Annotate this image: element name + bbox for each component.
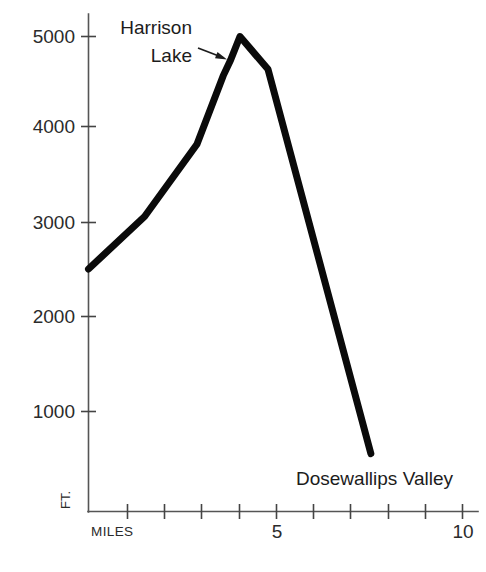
x-tick-label-5: 5: [272, 521, 283, 542]
harrison-lake-label-line1: Harrison: [120, 17, 192, 38]
y-tick-label-4000: 4000: [33, 116, 75, 137]
harrison-lake-label-line2: Lake: [151, 45, 192, 66]
y-tick-label-1000: 1000: [33, 401, 75, 422]
harrison-lake-arrow-head: [215, 52, 227, 60]
elevation-profile-line: [89, 37, 371, 454]
axis-group: [88, 14, 478, 512]
y-tick-label-2000: 2000: [33, 306, 75, 327]
y-axis-unit-label: FT.: [58, 491, 73, 509]
dosewallips-valley-label: Dosewallips Valley: [296, 468, 453, 489]
y-tick-label-group: 5000 4000 3000 2000 1000: [33, 26, 75, 422]
chart-canvas: 5000 4000 3000 2000 1000 5 10 FT. MILES: [0, 0, 486, 572]
y-tick-label-3000: 3000: [33, 212, 75, 233]
annotation-harrison-lake: Harrison Lake: [120, 17, 227, 66]
elevation-profile-chart: 5000 4000 3000 2000 1000 5 10 FT. MILES: [0, 0, 486, 572]
x-tick-label-10: 10: [452, 521, 473, 542]
x-axis-name-label: MILES: [91, 524, 134, 539]
y-tick-label-5000: 5000: [33, 26, 75, 47]
x-tick-label-group: 5 10: [272, 521, 474, 542]
